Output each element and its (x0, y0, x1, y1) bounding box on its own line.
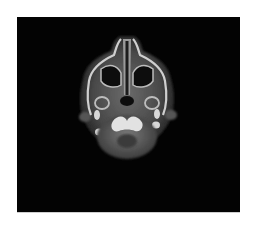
ct-scan-frame (17, 17, 240, 212)
ct-head-axial-slice (17, 17, 240, 212)
